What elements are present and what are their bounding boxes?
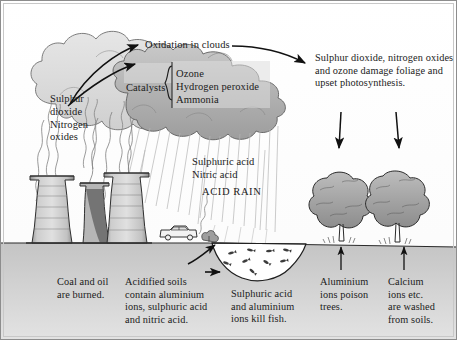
caption-calcium-washed: Calcium ions etc. are washed from soils. <box>388 276 435 326</box>
label-oxidation-in-clouds: Oxidation in clouds <box>145 39 230 52</box>
label-catalysts: Catalysts <box>126 82 165 95</box>
label-acid-rain: ACID RAIN <box>202 186 261 199</box>
caption-aluminium-poison-trees: Aluminium ions poison trees. <box>320 276 368 314</box>
caption-coal-burned: Coal and oil are burned. <box>57 276 109 301</box>
caption-acidified-soils: Acidified soils contain aluminium ions, … <box>125 276 207 326</box>
label-acids: Sulphuric acid Nitric acid <box>192 156 254 182</box>
acid-rain-diagram: Oxidation in clouds Catalysts Ozone Hydr… <box>0 0 457 340</box>
label-catalyst-list: Ozone Hydrogen peroxide Ammonia <box>176 68 259 106</box>
cooling-towers <box>26 173 152 243</box>
label-foliage-damage: Sulphur dioxide, nitrogen oxides and ozo… <box>315 52 455 90</box>
caption-fish-killed: Sulphuric acid and aluminium ions kill f… <box>231 288 294 326</box>
label-source-emissions: Sulphur dioxide Nitrogen oxides <box>50 93 88 144</box>
